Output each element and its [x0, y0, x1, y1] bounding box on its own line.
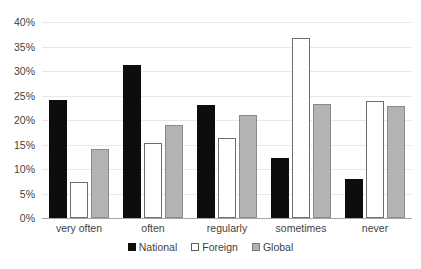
- y-tick-label: 35%: [14, 41, 35, 52]
- y-tick-label: 5%: [20, 188, 35, 199]
- bar-global-very-often: [91, 149, 109, 218]
- bar-national-very-often: [49, 100, 67, 218]
- bar-national-sometimes: [271, 158, 289, 218]
- x-tick-label-very-often: very often: [56, 222, 102, 236]
- plot-area: [42, 22, 412, 218]
- bar-foreign-often: [144, 143, 162, 218]
- bar-foreign-regularly: [218, 138, 236, 218]
- bar-global-sometimes: [313, 104, 331, 218]
- y-tick-label: 30%: [14, 66, 35, 77]
- bar-group-never: [338, 22, 412, 218]
- bar-foreign-sometimes: [292, 38, 310, 218]
- legend-swatch-global-icon: [252, 243, 260, 251]
- bar-group-regularly: [190, 22, 264, 218]
- bar-national-often: [123, 65, 141, 218]
- x-tick-label-regularly: regularly: [207, 222, 247, 236]
- bar-global-regularly: [239, 115, 257, 218]
- x-tick-label-sometimes: sometimes: [276, 222, 327, 236]
- bar-foreign-very-often: [70, 182, 88, 218]
- legend-item-foreign: Foreign: [191, 241, 238, 253]
- bar-foreign-never: [366, 101, 384, 218]
- legend-label-national: National: [139, 241, 178, 253]
- y-tick-label: 0%: [20, 213, 35, 224]
- x-tick-label-never: never: [362, 222, 388, 236]
- y-tick-label: 25%: [14, 90, 35, 101]
- legend-item-national: National: [128, 241, 178, 253]
- legend-swatch-national-icon: [128, 243, 136, 251]
- bar-global-often: [165, 125, 183, 218]
- bar-national-never: [345, 179, 363, 218]
- chart-legend: National Foreign Global: [0, 241, 421, 253]
- legend-label-global: Global: [263, 241, 293, 253]
- axis-baseline: [42, 218, 412, 219]
- legend-swatch-foreign-icon: [191, 243, 199, 251]
- y-tick-label: 40%: [14, 17, 35, 28]
- legend-item-global: Global: [252, 241, 293, 253]
- bar-group-often: [116, 22, 190, 218]
- bar-global-never: [387, 106, 405, 218]
- y-tick-label: 20%: [14, 115, 35, 126]
- y-tick-label: 10%: [14, 164, 35, 175]
- y-axis: 0% 5% 10% 15% 20% 25% 30% 35% 40%: [0, 0, 42, 269]
- bar-group-sometimes: [264, 22, 338, 218]
- bar-chart: 0% 5% 10% 15% 20% 25% 30% 35% 40%: [0, 0, 421, 269]
- legend-label-foreign: Foreign: [202, 241, 238, 253]
- y-tick-label: 15%: [14, 139, 35, 150]
- x-tick-label-often: often: [141, 222, 164, 236]
- x-axis: very often often regularly sometimes nev…: [42, 222, 412, 242]
- bar-national-regularly: [197, 105, 215, 218]
- bar-group-very-often: [42, 22, 116, 218]
